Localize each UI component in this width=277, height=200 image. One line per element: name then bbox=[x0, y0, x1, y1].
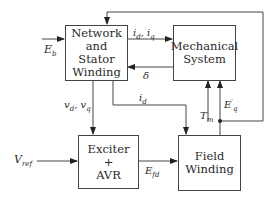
mechanical-line-2: System bbox=[183, 53, 226, 66]
mechanical-system-block: Mechanical System bbox=[173, 25, 236, 81]
eb-label: Eb bbox=[44, 44, 57, 60]
id-label: id bbox=[139, 92, 147, 108]
eq-label: E′q bbox=[224, 97, 237, 115]
network-line-4: Winding bbox=[72, 66, 121, 79]
field-line-2: Winding bbox=[185, 163, 234, 176]
network-stator-block: Network and Stator Winding bbox=[65, 25, 128, 81]
field-winding-block: Field Winding bbox=[178, 135, 241, 191]
idq-label: id, iq bbox=[133, 27, 155, 43]
delta-label: δ bbox=[143, 70, 149, 81]
vref-label: Vref bbox=[14, 154, 32, 170]
vdq-label: vd, vq bbox=[64, 99, 91, 115]
junction-dot bbox=[218, 119, 222, 123]
efd-label: Efd bbox=[145, 165, 159, 181]
exciter-line-3: AVR bbox=[96, 169, 121, 182]
exciter-line-2: + bbox=[104, 156, 114, 169]
id-arrow bbox=[113, 80, 186, 134]
exciter-line-1: Exciter bbox=[88, 143, 130, 156]
tm-label: Tm bbox=[200, 110, 213, 126]
exciter-avr-block: Exciter + AVR bbox=[78, 135, 139, 189]
